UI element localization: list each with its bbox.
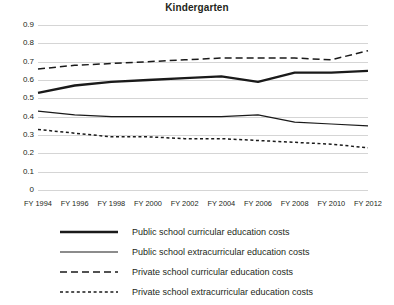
gridline [38,25,368,26]
legend-line-swatch [60,246,120,258]
chart-title: Kindergarten [0,2,394,13]
legend-label: Private school extracurricular education… [120,287,313,298]
y-axis-tick-labels: 0.90.80.70.60.50.40.30.20.10 [0,0,34,220]
legend-item: Public school curricular education costs [60,222,380,242]
gridline [38,135,368,136]
x-axis-tick: FY 2002 [165,199,205,208]
legend-line-swatch [60,286,120,298]
x-axis-tick-labels: FY 1994FY 1996FY 1998FY 2000FY 2002FY 20… [38,199,368,213]
x-axis-tick: FY 2006 [238,199,278,208]
gridline [38,98,368,99]
legend-line-swatch [60,226,120,238]
legend-item: Private school curricular education cost… [60,262,380,282]
legend-item: Private school extracurricular education… [60,282,380,302]
chart-figure: Kindergarten 0.90.80.70.60.50.40.30.20.1… [0,0,394,305]
y-axis-tick: 0 [0,186,34,194]
x-axis-tick: FY 2000 [128,199,168,208]
chart-legend: Public school curricular education costs… [60,222,380,302]
y-axis-tick: 0.7 [0,58,34,66]
x-axis-tick: FY 2010 [311,199,351,208]
x-axis-tick: FY 1994 [18,199,58,208]
x-axis-tick: FY 1996 [55,199,95,208]
y-axis-tick: 0.6 [0,76,34,84]
x-axis-tick: FY 2004 [201,199,241,208]
x-axis-tick: FY 1998 [91,199,131,208]
y-axis-tick: 0.8 [0,39,34,47]
legend-label: Private school curricular education cost… [120,267,293,278]
y-axis-tick: 0.9 [0,21,34,29]
legend-line-swatch [60,266,120,278]
gridline [38,117,368,118]
gridline [38,172,368,173]
gridline [38,190,368,191]
legend-item: Public school extracurricular education … [60,242,380,262]
y-axis-tick: 0.1 [0,168,34,176]
x-axis-tick: FY 2012 [348,199,388,208]
gridline [38,80,368,81]
x-axis-tick: FY 2008 [275,199,315,208]
plot-area [38,25,368,190]
gridline [38,43,368,44]
y-axis-tick: 0.3 [0,131,34,139]
legend-label: Public school extracurricular education … [120,247,310,258]
y-axis-tick: 0.2 [0,149,34,157]
gridlines [38,25,368,190]
y-axis-tick: 0.5 [0,94,34,102]
gridline [38,153,368,154]
y-axis-tick: 0.4 [0,113,34,121]
gridline [38,62,368,63]
legend-label: Public school curricular education costs [120,227,290,238]
